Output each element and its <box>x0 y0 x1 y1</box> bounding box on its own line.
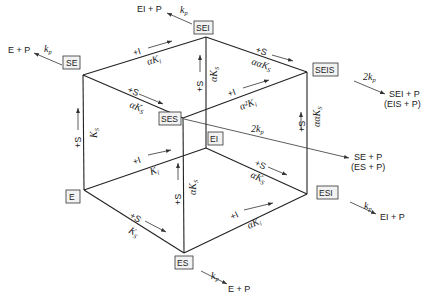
label-aks-ei-esi: αKS <box>249 169 268 186</box>
edge-ses-es <box>183 118 184 253</box>
product-ses-2: (ES + P) <box>351 162 385 172</box>
product-se: E + P <box>8 45 30 55</box>
product-seis-2: (EIS + P) <box>384 99 421 109</box>
label-plus-i-ses-seis: +I <box>226 87 237 99</box>
node-se: SE <box>63 56 80 69</box>
product-seis-1: SEI + P <box>389 89 420 99</box>
label-aks-es-ses: αKS <box>187 179 199 195</box>
cube-edges <box>83 37 307 253</box>
label-plus-s-e-es: +S <box>128 210 143 224</box>
svg-text:ESI: ESI <box>319 188 333 198</box>
label-alpha-ki-top: αKi <box>145 52 162 68</box>
svg-text:SEI: SEI <box>196 23 210 33</box>
label-ki-e-ei: Ki <box>147 164 160 178</box>
label-ks-e-es: KS <box>126 224 142 240</box>
edge-se-e <box>83 75 84 190</box>
label-plus-i-se-sei: +I <box>132 46 142 58</box>
label-aks-ei-sei: αKS <box>208 66 220 82</box>
node-esi: ESI <box>317 186 338 199</box>
node-ei: EI <box>208 132 223 145</box>
label-plus-s-se-ses: +S <box>126 85 140 98</box>
product-es: E + P <box>228 284 250 294</box>
node-e: E <box>66 190 80 203</box>
svg-text:EI: EI <box>210 134 218 144</box>
enzyme-cube-diagram: SE SEI SEIS SES EI E ESI ES E + P EI + P… <box>0 0 429 303</box>
rate-es: kp <box>211 270 219 282</box>
node-sei: SEI <box>194 21 213 34</box>
label-aki-es-esi: αKi <box>245 215 263 232</box>
label-plus-s-esi-seis: +S <box>297 121 307 132</box>
svg-text:ES: ES <box>177 258 189 268</box>
rate-ses: 2kp <box>251 123 264 135</box>
product-esi: EI + P <box>380 212 405 222</box>
product-ses-1: SE + P <box>354 152 382 162</box>
label-plus-s-es-ses: +S <box>173 194 183 205</box>
svg-text:SEIS: SEIS <box>315 65 335 75</box>
svg-text:SE: SE <box>66 58 78 68</box>
label-aaks-esi-seis: ααKS <box>311 106 323 127</box>
rate-sei: kp <box>180 4 188 16</box>
rate-esi: kp <box>364 200 372 212</box>
node-ses: SES <box>159 112 181 125</box>
label-aaks-sei-seis: ααKS <box>250 55 274 73</box>
rate-se: kp <box>44 43 52 55</box>
label-plus-s-ei-sei: +S <box>195 81 205 92</box>
node-es: ES <box>175 256 193 269</box>
label-plus-i-es-esi: +I <box>229 209 240 221</box>
svg-text:SES: SES <box>161 114 178 124</box>
product-sei: EI + P <box>137 4 162 14</box>
svg-text:E: E <box>69 192 75 202</box>
reaction-arrows <box>34 13 385 284</box>
label-plus-i-e-ei: +I <box>131 155 142 167</box>
label-ks-e-se: KS <box>88 127 100 139</box>
label-a2ki: α²Ki <box>238 96 258 113</box>
label-plus-s-e-se: +S <box>73 137 83 148</box>
node-seis: SEIS <box>313 63 338 76</box>
rate-seis: 2kp <box>363 71 376 83</box>
edge-ses-seis <box>183 72 307 118</box>
